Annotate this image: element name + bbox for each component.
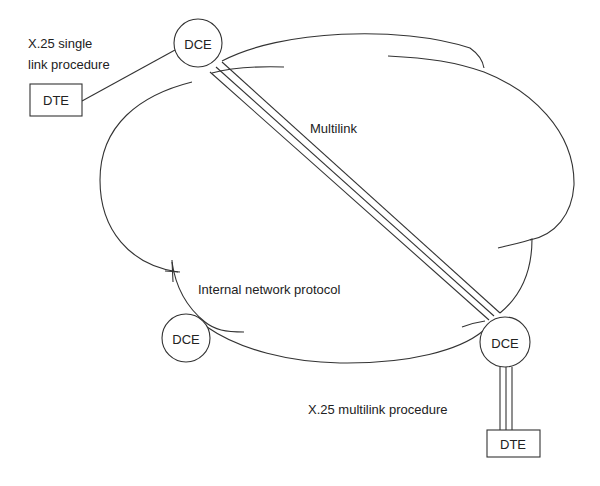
cloud-arc-top: [222, 34, 484, 68]
multilink-label: Multilink: [310, 121, 357, 136]
dte-top-node[interactable]: DTE: [30, 84, 82, 116]
single-link-label-line2: link procedure: [28, 57, 110, 72]
dce-bottom-right-label: DCE: [491, 336, 519, 351]
cloud-arc-bottom-right-hook: [462, 321, 485, 327]
cloud-arc-right-lower: [498, 239, 532, 313]
single-link-label-line1: X.25 single: [28, 36, 92, 51]
dce-top-node[interactable]: DCE: [174, 19, 222, 67]
network-diagram: DCE DCE DCE DTE DTE X.25 single link pro…: [0, 0, 600, 486]
network-cloud: [100, 34, 574, 363]
dce-bottom-right-node[interactable]: DCE: [480, 317, 530, 367]
internal-protocol-label: Internal network protocol: [198, 282, 340, 297]
dte-bottom-node[interactable]: DTE: [487, 430, 540, 457]
multilink-procedure-lines: [500, 367, 512, 430]
multilink-procedure-label: X.25 multilink procedure: [308, 402, 447, 417]
dce-bottom-left-node[interactable]: DCE: [162, 314, 210, 362]
dce-top-label: DCE: [184, 37, 212, 52]
dce-bottom-left-label: DCE: [172, 332, 200, 347]
cloud-arc-inner-top-left: [212, 67, 284, 73]
cloud-arc-left: [100, 82, 192, 272]
cloud-arc-bottom: [207, 327, 483, 363]
dte-top-label: DTE: [43, 93, 69, 108]
dte-bottom-label: DTE: [500, 437, 526, 452]
cloud-arc-inner-top-right: [388, 56, 574, 240]
